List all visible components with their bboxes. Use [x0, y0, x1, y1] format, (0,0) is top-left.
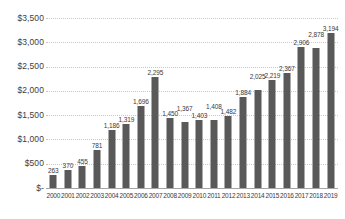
x-axis-tick-label: 2010	[192, 192, 206, 200]
bar-value-label: 1,319	[118, 116, 134, 123]
x-axis-tick-label: 2016	[280, 192, 294, 200]
bar[interactable]	[313, 48, 320, 188]
x-axis-tick-label: 2000	[46, 192, 60, 200]
bar-value-label: 1,408	[206, 103, 222, 110]
bar[interactable]	[210, 120, 217, 188]
x-axis-tick-label: 2009	[178, 192, 192, 200]
y-axis-tick-label: $-	[2, 184, 44, 193]
plot-area: 2633704557811,1861,3191,6962,2951,4501,3…	[46, 18, 338, 188]
bar[interactable]	[225, 116, 232, 188]
bar-slot: 2,025	[250, 18, 265, 188]
x-axis-tick-label: 2011	[207, 192, 220, 200]
bar-value-label: 2,878	[308, 31, 324, 38]
x-axis-tick-label: 2014	[251, 192, 265, 200]
bar[interactable]	[137, 106, 144, 188]
bar-value-label: 370	[63, 162, 74, 169]
y-axis-tick-label: $1,000	[2, 135, 44, 144]
bar[interactable]	[167, 118, 174, 188]
bar-value-label: 263	[48, 167, 59, 174]
bar-slot: 2,219	[265, 18, 280, 188]
bar[interactable]	[254, 90, 261, 188]
bar-slot: 1,696	[134, 18, 149, 188]
bar-value-label: 2,025	[250, 73, 266, 80]
x-axis-tick-label: 2006	[134, 192, 148, 200]
bar[interactable]	[108, 130, 115, 188]
bar-slot: 1,450	[163, 18, 178, 188]
bar[interactable]	[50, 175, 57, 188]
bar-slot: 370	[61, 18, 76, 188]
bar[interactable]	[79, 166, 86, 188]
y-axis-tick-label: $500	[2, 159, 44, 168]
bar-series: 2633704557811,1861,3191,6962,2951,4501,3…	[46, 18, 338, 188]
bar-value-label: 1,696	[133, 98, 149, 105]
x-axis-tick-label: 2008	[163, 192, 177, 200]
bar-slot: 1,367	[177, 18, 192, 188]
bar[interactable]	[181, 122, 188, 188]
x-axis-tick-label: 2003	[90, 192, 104, 200]
bar-slot: 2,295	[148, 18, 163, 188]
bar-slot: 3,194	[323, 18, 338, 188]
bar[interactable]	[123, 124, 130, 188]
bar-value-label: 1,884	[235, 89, 251, 96]
x-axis-tick-label: 2018	[309, 192, 323, 200]
bar[interactable]	[64, 170, 71, 188]
x-axis-tick-label: 2002	[76, 192, 90, 200]
x-axis-tick-label: 2017	[295, 192, 309, 200]
bar[interactable]	[298, 47, 305, 188]
axis-baseline	[46, 188, 338, 189]
bar[interactable]	[269, 80, 276, 188]
bar-slot: 1,884	[236, 18, 251, 188]
bar-value-label: 455	[77, 158, 88, 165]
bar-slot: 2,367	[280, 18, 295, 188]
bar[interactable]	[196, 120, 203, 188]
x-axis: 2000200120022003200420052006200720082009…	[46, 190, 338, 208]
bar-slot: 1,319	[119, 18, 134, 188]
bar-value-label: 1,482	[221, 108, 237, 115]
bar[interactable]	[240, 97, 247, 189]
bar-value-label: 2,906	[294, 39, 310, 46]
x-axis-tick-label: 2015	[265, 192, 279, 200]
bar[interactable]	[152, 77, 159, 188]
x-axis-tick-label: 2012	[222, 192, 236, 200]
bar-slot: 1,482	[221, 18, 236, 188]
y-axis-tick-label: $3,500	[2, 14, 44, 23]
bar[interactable]	[283, 73, 290, 188]
bar[interactable]	[94, 150, 101, 188]
x-axis-tick-label: 2019	[324, 192, 338, 200]
bar-value-label: 3,194	[323, 25, 339, 32]
x-axis-tick-label: 2013	[236, 192, 250, 200]
bar-slot: 1,186	[104, 18, 119, 188]
bar-slot: 2,878	[309, 18, 324, 188]
bar-value-label: 1,450	[162, 110, 178, 117]
bar-slot: 1,403	[192, 18, 207, 188]
bar-slot: 1,408	[207, 18, 222, 188]
y-axis-tick-label: $1,500	[2, 111, 44, 120]
y-axis-tick-label: $2,500	[2, 62, 44, 71]
bar-value-label: 1,367	[177, 105, 193, 112]
bar-chart: $-$500$1,000$1,500$2,000$2,500$3,000$3,5…	[0, 0, 345, 219]
bar-value-label: 1,186	[104, 122, 120, 129]
x-axis-tick-label: 2001	[61, 192, 75, 200]
bar-slot: 781	[90, 18, 105, 188]
bar[interactable]	[327, 33, 334, 188]
bar-value-label: 2,219	[264, 72, 280, 79]
bar-slot: 2,906	[294, 18, 309, 188]
bar-slot: 455	[75, 18, 90, 188]
x-axis-tick-label: 2004	[105, 192, 119, 200]
bar-value-label: 1,403	[191, 112, 207, 119]
bar-value-label: 2,367	[279, 65, 295, 72]
y-axis: $-$500$1,000$1,500$2,000$2,500$3,000$3,5…	[0, 18, 44, 188]
bar-value-label: 781	[92, 142, 103, 149]
bar-slot: 263	[46, 18, 61, 188]
y-axis-tick-label: $2,000	[2, 86, 44, 95]
x-axis-tick-label: 2007	[149, 192, 163, 200]
bar-value-label: 2,295	[148, 69, 164, 76]
x-axis-tick-label: 2005	[119, 192, 133, 200]
y-axis-tick-label: $3,000	[2, 38, 44, 47]
